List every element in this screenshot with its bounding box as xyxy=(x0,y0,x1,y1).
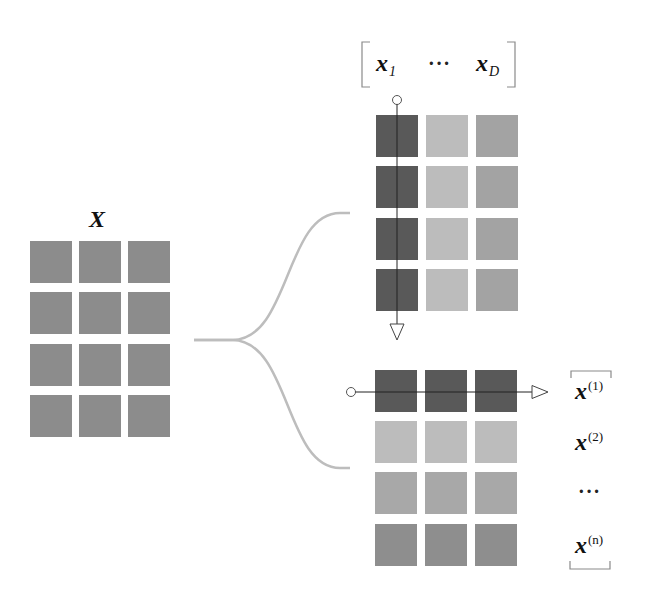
arrows-layer xyxy=(0,0,647,601)
column-arrow-icon xyxy=(390,96,404,341)
row-arrow-icon xyxy=(347,386,549,399)
row-bracket xyxy=(570,371,611,569)
